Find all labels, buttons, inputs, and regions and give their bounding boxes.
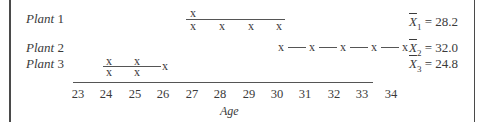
plant-1-mark: x	[190, 20, 196, 32]
x-tick: 27	[186, 87, 199, 102]
plant-word: Plant	[26, 11, 54, 26]
plant-2-mean: X2 = 32.0	[409, 40, 458, 58]
mean-value: = 24.8	[425, 56, 458, 71]
plant-1-mark: x	[248, 20, 254, 32]
x-tick: 34	[385, 87, 398, 102]
plant-3-mean: X3 = 24.8	[409, 56, 458, 74]
x-tick: 30	[271, 87, 284, 102]
plant-word: Plant	[26, 56, 54, 71]
plant-2-mark: x	[278, 41, 284, 53]
plant-1-mark: x	[190, 7, 196, 19]
mean-subscript: 3	[417, 64, 422, 74]
x-tick: 23	[72, 87, 85, 102]
plant-2-connector	[350, 47, 368, 48]
plant-2-mark: x	[371, 41, 377, 53]
right-border	[474, 0, 475, 122]
plant-1-mark: x	[276, 20, 282, 32]
plant-number: 2	[57, 40, 64, 55]
plant-2-label: Plant 2	[26, 40, 64, 56]
plant-3-mark: x	[106, 66, 112, 78]
x-tick: 31	[299, 87, 312, 102]
x-tick: 28	[214, 87, 227, 102]
mean-value: = 28.2	[425, 14, 458, 29]
x-tick: 33	[356, 87, 369, 102]
mean-subscript: 1	[417, 22, 422, 32]
plant-1-mark: x	[219, 20, 225, 32]
xbar-symbol: X	[409, 40, 417, 55]
plant-3-mark: x	[162, 60, 168, 72]
plant-word: Plant	[26, 40, 54, 55]
x-tick: 24	[100, 87, 113, 102]
plant-number: 3	[57, 56, 64, 71]
plant-2-connector	[288, 47, 306, 48]
plant-1-mean: X1 = 28.2	[409, 14, 458, 32]
left-border	[9, 0, 11, 122]
plant-2-mark: x	[402, 41, 408, 53]
x-axis-title: Age	[220, 104, 239, 119]
plant-2-connector	[381, 47, 399, 48]
xbar-symbol: X	[409, 14, 417, 29]
x-tick: 25	[129, 87, 142, 102]
plant-2-connector	[319, 47, 337, 48]
x-tick: 29	[243, 87, 256, 102]
plant-2-mark: x	[309, 41, 315, 53]
plant-1-bracket-line	[186, 19, 285, 20]
plant-3-mark: x	[134, 66, 140, 78]
x-tick: 32	[328, 87, 341, 102]
x-tick: 26	[157, 87, 170, 102]
mean-value: = 32.0	[425, 40, 458, 55]
x-axis-line	[73, 82, 373, 83]
xbar-symbol: X	[409, 56, 417, 71]
plant-3-label: Plant 3	[26, 56, 64, 72]
plant-2-mark: x	[340, 41, 346, 53]
plant-number: 1	[57, 11, 64, 26]
plant-1-label: Plant 1	[26, 11, 64, 27]
